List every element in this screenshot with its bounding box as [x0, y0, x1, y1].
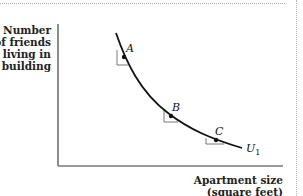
point-a-label: A: [125, 42, 134, 55]
point-c-label: C: [215, 125, 224, 138]
point-c: [214, 138, 218, 142]
x-axis-label: Apartment size (square feet): [194, 174, 283, 196]
x-axis-label-line: (square feet): [194, 186, 283, 196]
x-axis-label-line: Apartment size: [194, 174, 283, 186]
curve-label-u-subscript: 1: [255, 148, 260, 157]
point-b: [169, 114, 173, 118]
curve-label-u: U1: [246, 142, 260, 157]
point-b-label: B: [171, 101, 180, 114]
chart-frame: Number of friends living in building A B…: [0, 0, 303, 196]
plot-area: A B C U1: [0, 0, 303, 196]
point-a: [122, 55, 126, 59]
